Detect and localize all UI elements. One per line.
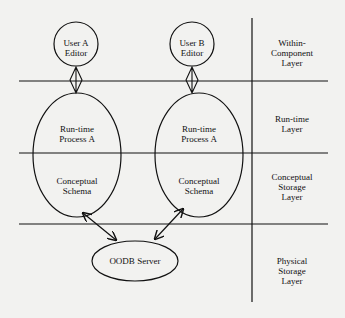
process-a-right-node xyxy=(155,93,243,217)
layer-label-conceptual-storage: Conceptual Storage Layer xyxy=(262,172,322,202)
user-a-editor-label: User A Editor xyxy=(54,38,98,58)
conceptual-schema-left-label: Conceptual Schema xyxy=(44,176,110,196)
user-b-editor-label: User B Editor xyxy=(170,38,214,58)
process-a-left-node xyxy=(33,93,121,217)
layer-label-physical-storage: Physical Storage Layer xyxy=(262,256,322,286)
arrow-left-to-server xyxy=(83,213,116,240)
connector-b-diamond xyxy=(186,67,198,93)
oodb-server-label: OODB Server xyxy=(100,256,170,266)
connector-a-diamond xyxy=(70,67,82,93)
layer-label-within-component: Within- Component Layer xyxy=(262,38,322,68)
conceptual-schema-right-label: Conceptual Schema xyxy=(166,176,232,196)
runtime-process-a-right-label: Run-time Process A xyxy=(169,124,229,144)
layer-label-runtime: Run-time Layer xyxy=(262,114,322,134)
runtime-process-a-left-label: Run-time Process A xyxy=(47,124,107,144)
